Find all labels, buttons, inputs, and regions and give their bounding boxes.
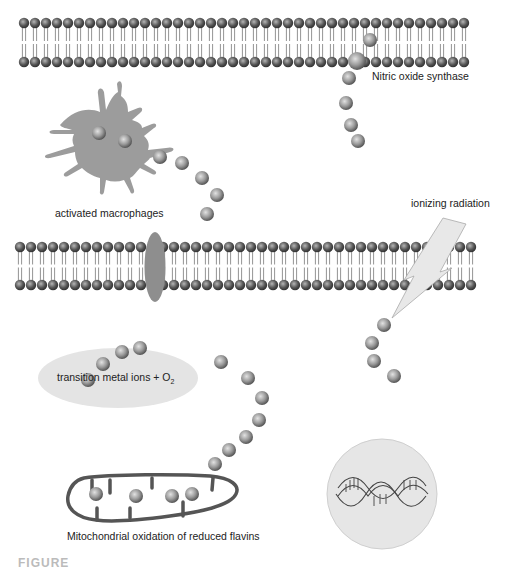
phospholipid-head <box>272 57 282 67</box>
phospholipid-head <box>103 280 113 290</box>
macrophage-trail-spheres <box>153 150 224 221</box>
phospholipid-head <box>294 57 304 67</box>
phospholipid-head <box>19 18 29 28</box>
phospholipid-head <box>283 57 293 67</box>
macrophage-cell <box>45 81 174 194</box>
phospholipid-head <box>389 242 399 252</box>
phospholipid-head <box>426 18 436 28</box>
phospholipid-head <box>257 280 267 290</box>
radical-sphere <box>241 371 255 385</box>
phospholipid-head <box>15 280 25 290</box>
phospholipid-head <box>202 280 212 290</box>
phospholipid-head <box>393 18 403 28</box>
phospholipid-head <box>367 280 377 290</box>
phospholipid-head <box>323 280 333 290</box>
radical-sphere <box>255 391 269 405</box>
phospholipid-head <box>228 18 238 28</box>
phospholipid-head <box>74 57 84 67</box>
phospholipid-head <box>378 280 388 290</box>
phospholipid-head <box>184 18 194 28</box>
phospholipid-head <box>389 280 399 290</box>
phospholipid-head <box>382 18 392 28</box>
phospholipid-head <box>59 280 69 290</box>
phospholipid-head <box>81 280 91 290</box>
phospholipid-head <box>279 242 289 252</box>
phospholipid-head <box>415 18 425 28</box>
phospholipid-head <box>382 57 392 67</box>
phospholipid-head <box>206 57 216 67</box>
radical-sphere <box>165 489 179 503</box>
phospholipid-head <box>63 57 73 67</box>
phospholipid-head <box>356 242 366 252</box>
phospholipid-head <box>349 18 359 28</box>
phospholipid-head <box>125 280 135 290</box>
phospholipid-head <box>415 57 425 67</box>
phospholipid-head <box>202 242 212 252</box>
radical-sphere <box>129 489 143 503</box>
phospholipid-head <box>279 280 289 290</box>
phospholipid-head <box>448 18 458 28</box>
phospholipid-head <box>52 57 62 67</box>
phospholipid-head <box>114 280 124 290</box>
phospholipid-head <box>378 242 388 252</box>
phospholipid-head <box>272 18 282 28</box>
phospholipid-head <box>125 242 135 252</box>
phospholipid-head <box>356 280 366 290</box>
phospholipid-head <box>162 18 172 28</box>
nucleus-circle <box>327 439 437 549</box>
phospholipid-head <box>74 18 84 28</box>
radical-sphere <box>115 345 129 359</box>
radical-sphere <box>239 430 253 444</box>
upper-membrane <box>19 18 469 67</box>
phospholipid-head <box>48 280 58 290</box>
phospholipid-head <box>400 242 410 252</box>
radical-sphere <box>208 457 222 471</box>
phospholipid-head <box>162 57 172 67</box>
phospholipid-head <box>228 57 238 67</box>
phospholipid-head <box>455 242 465 252</box>
radical-sphere <box>222 443 236 457</box>
phospholipid-head <box>235 280 245 290</box>
radical-sphere <box>118 134 132 148</box>
radical-sphere <box>92 126 106 140</box>
phospholipid-head <box>301 280 311 290</box>
phospholipid-head <box>92 280 102 290</box>
phospholipid-head <box>85 18 95 28</box>
phospholipid-head <box>224 242 234 252</box>
phospholipid-head <box>246 280 256 290</box>
membrane-protein-channel <box>145 232 166 302</box>
phospholipid-head <box>437 57 447 67</box>
phospholipid-head <box>338 57 348 67</box>
label-mitochondrial-oxidation: Mitochondrial oxidation of reduced flavi… <box>67 530 260 542</box>
label-nitric-oxide-synthase: Nitric oxide synthase <box>372 70 469 82</box>
phospholipid-head <box>173 57 183 67</box>
phospholipid-head <box>459 57 469 67</box>
phospholipid-head <box>48 242 58 252</box>
radical-sphere <box>89 487 103 501</box>
phospholipid-head <box>26 280 36 290</box>
radiation-trail-spheres <box>365 318 401 383</box>
phospholipid-head <box>184 57 194 67</box>
radical-sphere <box>175 156 189 170</box>
phospholipid-head <box>107 57 117 67</box>
phospholipid-head <box>371 57 381 67</box>
phospholipid-head <box>37 280 47 290</box>
phospholipid-head <box>345 242 355 252</box>
phospholipid-head <box>41 57 51 67</box>
phospholipid-head <box>96 18 106 28</box>
phospholipid-head <box>334 242 344 252</box>
radical-sphere <box>387 369 401 383</box>
phospholipid-head <box>466 242 476 252</box>
phospholipid-head <box>268 280 278 290</box>
radical-sphere <box>377 318 391 332</box>
phospholipid-head <box>261 57 271 67</box>
phospholipid-head <box>136 280 146 290</box>
radical-sphere <box>185 487 199 501</box>
phospholipid-head <box>360 18 370 28</box>
phospholipid-head <box>30 57 40 67</box>
phospholipid-head <box>448 57 458 67</box>
radical-sphere <box>200 207 214 221</box>
radical-sphere <box>342 71 356 85</box>
radical-sphere <box>153 150 167 164</box>
